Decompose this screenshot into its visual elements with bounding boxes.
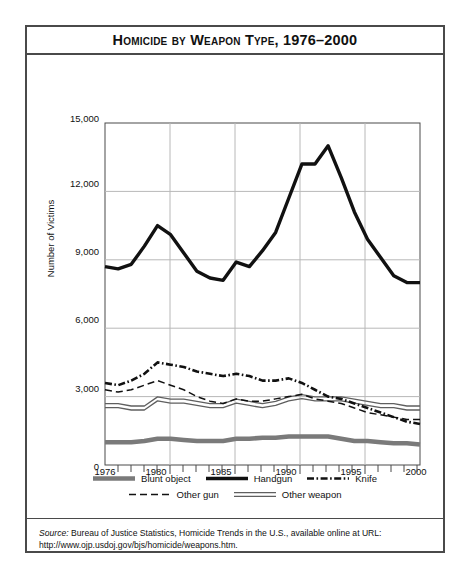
legend-item-knife: Knife (307, 473, 377, 484)
source-note: Source: Bureau of Justice Statistics, Ho… (27, 518, 443, 552)
legend-swatch-blunt-object (93, 473, 135, 484)
legend-label-knife: Knife (355, 473, 377, 484)
legend-item-handgun: Handgun (206, 473, 293, 484)
page-title: Homicide by Weapon Type, 1976–2000 (113, 32, 358, 48)
source-text: Bureau of Justice Statistics, Homicide T… (69, 528, 382, 538)
legend-label-other-weapon: Other weapon (282, 489, 342, 500)
legend-swatch-other-gun (129, 489, 171, 500)
source-prefix: Source: (39, 528, 69, 538)
legend-label-blunt-object: Blunt object (141, 473, 191, 484)
legend-swatch-handgun (206, 473, 248, 484)
chart-figure: Homicide by Weapon Type, 1976–2000 Numbe… (25, 25, 445, 553)
legend-row-1: Blunt object Handgun Knife (27, 473, 443, 484)
legend-item-other-gun: Other gun (129, 489, 219, 500)
legend-label-handgun: Handgun (254, 473, 293, 484)
source-url: http://www.ojp.usdoj.gov/bjs/homicide/we… (39, 540, 238, 550)
legend-swatch-knife (307, 473, 349, 484)
chart-plot (27, 55, 447, 475)
legend-item-other-weapon: Other weapon (234, 489, 342, 500)
chart-area: Number of Victims Year 0 3,000 6,000 9,0… (27, 55, 443, 553)
legend-row-2: Other gun Other weapon (27, 489, 443, 500)
legend-swatch-other-weapon (234, 489, 276, 500)
chart-legend: Blunt object Handgun Knife (27, 473, 443, 505)
chart-title-bar: Homicide by Weapon Type, 1976–2000 (27, 27, 443, 55)
legend-label-other-gun: Other gun (177, 489, 219, 500)
legend-item-blunt-object: Blunt object (93, 473, 191, 484)
